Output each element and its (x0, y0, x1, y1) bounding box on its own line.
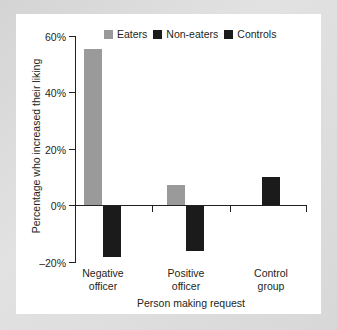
legend-label-non-eaters: Non-eaters (166, 29, 218, 40)
x-tick-3 (306, 206, 307, 212)
y-axis-line (75, 36, 76, 263)
x-tick-2 (230, 206, 231, 212)
y-tick-60 (69, 36, 75, 37)
x-category-label-line1: Negative (58, 267, 148, 280)
legend-label-eaters: Eaters (117, 29, 147, 40)
legend-swatch-eaters (104, 30, 113, 39)
legend-entry-non-eaters: Non-eaters (153, 29, 218, 40)
legend-entry-eaters: Eaters (104, 29, 147, 40)
x-category-label-positive-officer: Positive officer (141, 267, 231, 293)
y-tick-0 (69, 205, 75, 206)
x-category-label-line2: officer (141, 280, 231, 293)
x-category-label-line2: officer (58, 280, 148, 293)
y-tick-40 (69, 92, 75, 93)
bar-eaters-negative-officer (84, 49, 102, 205)
x-category-label-negative-officer: Negative officer (58, 267, 148, 293)
y-axis-title: Percentage who increased their liking (30, 46, 42, 246)
y-tick-neg20 (69, 262, 75, 263)
bar-non-eaters-positive-officer (186, 206, 204, 251)
x-category-label-line2: group (226, 280, 316, 293)
chart-legend: Eaters Non-eaters Controls (104, 27, 309, 41)
y-tick-label-60: 60% (24, 31, 66, 43)
x-axis-title: Person making request (75, 297, 307, 309)
x-category-label-control-group: Control group (226, 267, 316, 293)
bar-eaters-positive-officer (167, 185, 185, 205)
bar-controls-control-group (262, 177, 280, 205)
y-tick-20 (69, 149, 75, 150)
x-tick-1 (152, 206, 153, 212)
legend-label-controls: Controls (237, 29, 276, 40)
legend-swatch-non-eaters (153, 30, 162, 39)
bar-non-eaters-negative-officer (103, 206, 121, 257)
x-category-label-line1: Positive (141, 267, 231, 280)
x-category-label-line1: Control (226, 267, 316, 280)
figure-background: Eaters Non-eaters Controls 60% 40% 20% 0… (0, 0, 337, 330)
legend-entry-controls: Controls (224, 29, 276, 40)
legend-swatch-controls (224, 30, 233, 39)
